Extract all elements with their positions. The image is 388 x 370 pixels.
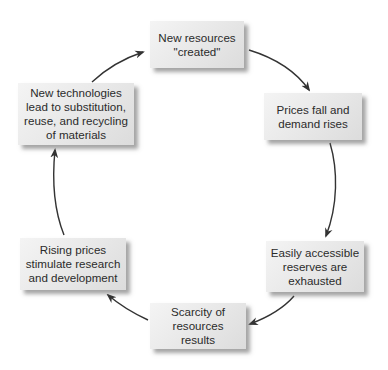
arrow-new-resources-to-prices-fall: [249, 50, 309, 90]
arrow-rising-prices-to-new-technologies: [54, 150, 64, 235]
node-scarcity: Scarcity of resources results: [150, 303, 246, 349]
node-label: Rising prices stimulate research and dev…: [26, 243, 121, 285]
node-prices-fall: Prices fall and demand rises: [264, 93, 362, 140]
node-new-resources: New resources "created": [150, 21, 244, 68]
arrow-reserves-to-scarcity: [250, 296, 294, 324]
arrow-prices-fall-to-reserves: [326, 143, 336, 236]
node-label: New resources "created": [158, 31, 235, 59]
arrow-scarcity-to-rising-prices: [108, 295, 148, 320]
node-label: Scarcity of resources results: [154, 305, 242, 347]
node-rising-prices: Rising prices stimulate research and dev…: [20, 238, 126, 290]
node-label: Easily accessible reserves are exhausted: [271, 246, 359, 288]
arrow-new-technologies-to-new-resources: [92, 52, 143, 82]
node-reserves-exhausted: Easily accessible reserves are exhausted: [266, 241, 364, 292]
resource-cycle-diagram: New resources "created" Prices fall and …: [0, 0, 388, 370]
node-new-technologies: New technologies lead to substitution, r…: [18, 83, 134, 145]
node-label: New technologies lead to substitution, r…: [24, 86, 128, 142]
node-label: Prices fall and demand rises: [277, 103, 350, 131]
